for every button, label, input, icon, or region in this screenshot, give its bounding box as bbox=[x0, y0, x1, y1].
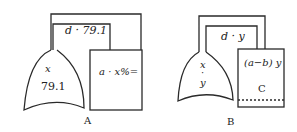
figure-a-caption: A bbox=[83, 115, 92, 126]
figure-a-box bbox=[90, 50, 142, 110]
figure-a-flask-var: x bbox=[45, 63, 51, 74]
figure-b-flask-var-y: y bbox=[199, 77, 206, 88]
figure-b-caption: B bbox=[227, 116, 234, 127]
figure-b-tube-label: d · y bbox=[221, 30, 246, 43]
figure-a-flask-value: 79.1 bbox=[41, 80, 66, 93]
figure-b-box-label: (a−b) y bbox=[244, 57, 282, 68]
diagram-canvas: d · 79.1 x 79.1 a · x%= A d · y x · y (a… bbox=[0, 0, 297, 132]
figure-b-box-sublabel: C bbox=[258, 83, 266, 94]
figure-a-box-label: a · x%= bbox=[99, 66, 138, 77]
figure-a-tube-label: d · 79.1 bbox=[65, 24, 107, 37]
